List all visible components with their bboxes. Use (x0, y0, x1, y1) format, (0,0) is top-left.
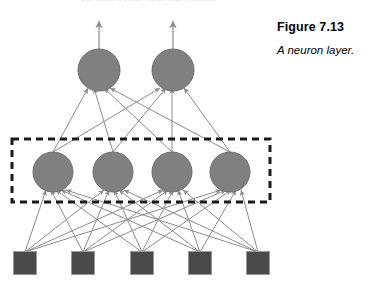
input-nodes (14, 252, 270, 275)
connections-hidden-to-output (53, 88, 230, 152)
neuron-node (33, 152, 73, 192)
figure-page: be sent to the next layer along (0, 0, 369, 287)
output-neuron-nodes (78, 49, 194, 91)
output-neuron-node (78, 49, 120, 91)
input-node (131, 252, 154, 275)
input-node (247, 252, 270, 275)
input-node (72, 252, 95, 275)
neuron-node (152, 152, 192, 192)
input-node (14, 252, 37, 275)
connections-input-to-hidden (25, 190, 258, 252)
input-node (189, 252, 212, 275)
neuron-layer-nodes (33, 152, 250, 192)
figure-number: Figure 7.13 (277, 20, 367, 34)
output-arrows (99, 21, 173, 49)
figure-caption: A neuron layer. (277, 43, 367, 57)
neuron-node (93, 152, 133, 192)
figure-caption-block: Figure 7.13 A neuron layer. (277, 20, 367, 57)
neuron-node (210, 152, 250, 192)
output-neuron-node (152, 49, 194, 91)
